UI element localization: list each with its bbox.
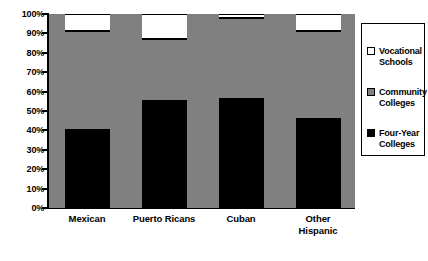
y-tick-label-20: 20% — [0, 165, 44, 174]
bar-cuban[interactable] — [219, 14, 263, 208]
stacked-bar-chart-figure: 0% 10% 20% 30% 40% 50% 60% 70% 80% 90% 1… — [0, 0, 428, 261]
segment-cuban-vocational-schools — [219, 14, 264, 18]
y-tick-label-30: 30% — [0, 145, 44, 154]
bar-other-hispanic[interactable] — [296, 14, 340, 208]
y-tick-label-100: 100% — [0, 10, 44, 19]
legend-label-line: Community — [379, 87, 427, 98]
y-tick-label-40: 40% — [0, 126, 44, 135]
y-tick-label-90: 90% — [0, 29, 44, 38]
legend-label-line: Colleges — [379, 139, 419, 150]
segment-other-hispanic-four-year-colleges — [296, 119, 341, 208]
legend-label-line: Vocational — [379, 46, 422, 57]
legend-item-four-year-colleges[interactable]: Four-Year Colleges — [367, 128, 423, 150]
y-tick-label-50: 50% — [0, 107, 44, 116]
y-tick-label-80: 80% — [0, 48, 44, 57]
chart-legend: Vocational Schools Community Colleges Fo… — [361, 23, 425, 156]
x-axis-category-labels: Mexican Puerto Ricans Cuban Other Hispan… — [49, 213, 355, 257]
x-category-line: Other — [268, 213, 368, 225]
legend-item-vocational-schools[interactable]: Vocational Schools — [367, 46, 423, 68]
segment-puerto-ricans-community-colleges — [142, 39, 187, 101]
legend-swatch-vocational-schools-icon — [367, 47, 375, 55]
y-tick-label-70: 70% — [0, 68, 44, 77]
bar-mexican[interactable] — [65, 14, 109, 208]
x-category-label-other-hispanic: Other Hispanic — [268, 213, 368, 237]
y-tick-label-60: 60% — [0, 87, 44, 96]
legend-swatch-four-year-colleges-icon — [367, 129, 375, 137]
segment-other-hispanic-vocational-schools — [296, 14, 341, 31]
legend-item-community-colleges[interactable]: Community Colleges — [367, 87, 423, 109]
segment-cuban-four-year-colleges — [219, 99, 264, 208]
x-category-line: Hispanic — [268, 225, 368, 237]
legend-label-line: Four-Year — [379, 128, 419, 139]
segment-mexican-vocational-schools — [65, 14, 110, 31]
legend-label-line: Colleges — [379, 98, 427, 109]
segment-mexican-four-year-colleges — [65, 130, 110, 208]
legend-swatch-community-colleges-icon — [367, 88, 375, 96]
legend-label-vocational-schools: Vocational Schools — [379, 46, 422, 68]
y-tick-label-0: 0% — [0, 204, 44, 213]
y-tick-label-10: 10% — [0, 184, 44, 193]
segment-puerto-ricans-four-year-colleges — [142, 101, 187, 208]
legend-label-community-colleges: Community Colleges — [379, 87, 427, 109]
legend-label-line: Schools — [379, 57, 422, 68]
plot-area — [49, 14, 355, 208]
legend-label-four-year-colleges: Four-Year Colleges — [379, 128, 419, 150]
y-axis-tick-labels: 0% 10% 20% 30% 40% 50% 60% 70% 80% 90% 1… — [0, 14, 44, 208]
bar-puerto-ricans[interactable] — [142, 14, 186, 208]
segment-cuban-community-colleges — [219, 18, 264, 99]
segment-puerto-ricans-vocational-schools — [142, 14, 187, 39]
segment-mexican-community-colleges — [65, 31, 110, 130]
segment-other-hispanic-community-colleges — [296, 31, 341, 118]
